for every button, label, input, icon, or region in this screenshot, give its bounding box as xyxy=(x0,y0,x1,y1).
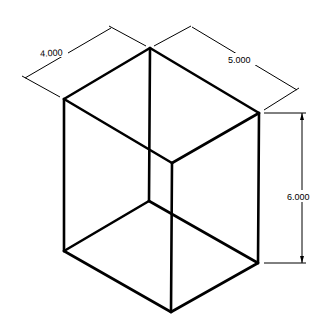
top-edge-back-left xyxy=(64,48,150,99)
vertical-edge-right xyxy=(258,113,259,263)
dimension-depth: 5.000 xyxy=(154,26,299,110)
bottom-edge-front-left xyxy=(64,251,171,312)
dimension-label-depth: 5.000 xyxy=(228,55,251,65)
extension-line xyxy=(154,26,191,46)
dimension-label-width: 4.000 xyxy=(40,48,63,59)
extension-line xyxy=(109,26,146,46)
vertical-edge-front xyxy=(171,163,172,312)
top-edge-front-left xyxy=(64,99,172,163)
bottom-edge-back-left xyxy=(64,201,149,251)
extension-line xyxy=(264,88,299,110)
bottom-edge-front-right xyxy=(171,263,258,312)
top-edge-front-right xyxy=(172,113,259,163)
arrowhead-icon xyxy=(300,256,304,263)
dimension-label-height: 6.000 xyxy=(287,192,310,202)
dimension-height: 6.000 xyxy=(264,113,317,263)
vertical-edge-back xyxy=(149,48,150,201)
arrowhead-icon xyxy=(300,113,304,120)
isometric-box-diagram: 4.000 5.000 6.000 xyxy=(0,0,332,331)
bottom-edge-back-right xyxy=(149,201,258,263)
box-edges xyxy=(64,48,259,312)
extension-line xyxy=(22,76,60,97)
